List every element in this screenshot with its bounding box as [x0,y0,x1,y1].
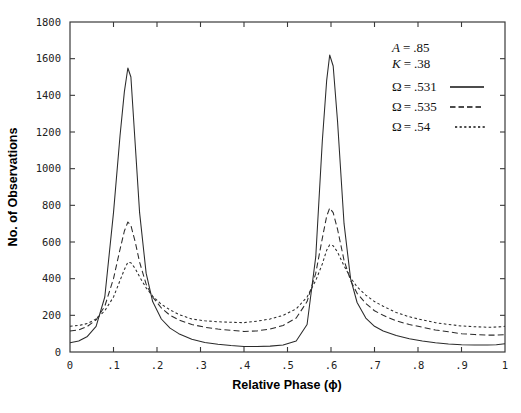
legend-entry-omega-54[interactable]: Ω=.54 [392,119,486,134]
legend-K-equals: = [404,56,411,71]
series-line-0 [70,55,505,347]
legend-omega1-equals: = [404,79,411,94]
x-axis-title: Relative Phase (ϕ) [232,378,341,392]
legend-A-value: .85 [413,40,429,55]
legend-annotation-K: K=.38 [391,56,430,71]
svg-text:Ω=.535: Ω=.535 [392,99,437,114]
legend-entry-omega-535[interactable]: Ω=.535 [392,99,484,114]
svg-text:Ω=.54: Ω=.54 [392,119,431,134]
legend-A-symbol: A [391,40,400,55]
x-tick-label: 0 [67,359,73,371]
legend-omega3-equals: = [404,119,411,134]
y-tick-label: 1800 [36,16,61,28]
x-tick-label: .4 [238,359,251,371]
y-tick-label: 1200 [36,126,61,138]
series-line-2 [70,245,505,328]
x-tick-label: 1 [502,359,508,371]
y-axis-tick-labels: 020040060080010001200140016001800 [36,16,61,358]
y-axis-title: No. of Observations [6,128,20,247]
x-tick-label: .5 [281,359,294,371]
data-series-group [70,55,505,347]
x-tick-label: .6 [325,359,338,371]
legend-omega2-value: .535 [414,99,437,114]
x-axis-ticks [114,22,462,352]
svg-text:A=.85: A=.85 [391,40,430,55]
plot-frame [70,22,505,352]
x-tick-label: .2 [151,359,164,371]
series-line-1 [70,208,505,335]
y-tick-label: 200 [42,309,61,321]
legend-omega1-value: .531 [414,79,437,94]
x-tick-label: .9 [455,359,468,371]
legend-omega3-value: .54 [414,119,431,134]
x-tick-label: .8 [412,359,425,371]
y-tick-label: 1600 [36,52,61,64]
y-tick-label: 400 [42,272,61,284]
y-tick-label: 800 [42,199,61,211]
y-tick-label: 600 [42,236,61,248]
legend-A-equals: = [403,40,410,55]
x-axis-tick-labels: 0.1.2.3.4.5.6.7.8.91 [67,359,508,371]
legend: A=.85 K=.38 Ω=.531 Ω=.535 [391,40,486,134]
y-tick-label: 0 [55,346,61,358]
legend-annotation-A: A=.85 [391,40,430,55]
y-axis-ticks [70,59,505,316]
y-tick-label: 1400 [36,89,61,101]
y-tick-label: 1000 [36,162,61,174]
x-tick-label: .7 [368,359,381,371]
x-tick-label: .1 [107,359,120,371]
legend-omega2-equals: = [404,99,411,114]
legend-omega3-symbol: Ω [392,119,402,134]
chart-svg: 0.1.2.3.4.5.6.7.8.91 0200400600800100012… [0,0,521,413]
svg-text:Ω=.531: Ω=.531 [392,79,437,94]
legend-K-symbol: K [391,56,402,71]
legend-entry-omega-531[interactable]: Ω=.531 [392,79,484,94]
legend-omega2-symbol: Ω [392,99,402,114]
svg-text:K=.38: K=.38 [391,56,430,71]
figure-container: 0.1.2.3.4.5.6.7.8.91 0200400600800100012… [0,0,521,413]
x-tick-label: .3 [194,359,207,371]
legend-K-value: .38 [414,56,430,71]
legend-omega1-symbol: Ω [392,79,402,94]
